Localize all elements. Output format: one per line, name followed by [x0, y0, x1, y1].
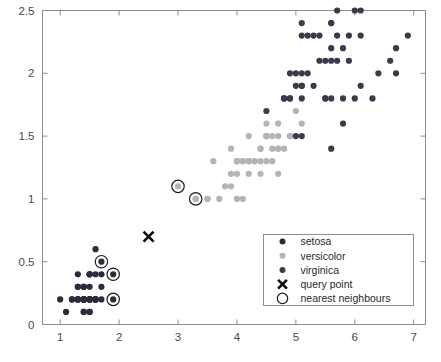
x-tick-label: 5 [293, 331, 299, 343]
data-point-virginica [322, 95, 328, 101]
data-point-setosa [87, 284, 93, 290]
data-point-virginica [299, 33, 305, 39]
data-point-virginica [293, 70, 299, 76]
data-point-virginica [299, 20, 305, 26]
data-point-virginica [287, 70, 293, 76]
data-point-versicolor [216, 196, 222, 202]
data-point-virginica [328, 20, 334, 26]
data-point-versicolor [193, 196, 199, 202]
series-versicolor-points [175, 95, 305, 202]
data-point-virginica [334, 33, 340, 39]
data-point-virginica [299, 83, 305, 89]
legend-label-virginica: virginica [301, 264, 340, 276]
data-point-versicolor [281, 146, 287, 152]
data-point-setosa [92, 296, 98, 302]
data-point-virginica [393, 45, 399, 51]
data-point-versicolor [240, 196, 246, 202]
data-point-virginica [340, 120, 346, 126]
data-point-versicolor [210, 158, 216, 164]
data-point-setosa [110, 271, 116, 277]
legend-label-nearest-neighbours: nearest neighbours [301, 292, 391, 304]
data-point-versicolor [263, 158, 269, 164]
data-point-virginica [352, 95, 358, 101]
series-setosa-points [57, 246, 116, 315]
data-point-virginica [293, 83, 299, 89]
y-tick-label: 1 [28, 193, 34, 205]
data-point-virginica [375, 70, 381, 76]
data-point-setosa [98, 259, 104, 265]
x-tick-label: 4 [234, 331, 241, 343]
data-point-setosa [92, 271, 98, 277]
data-point-virginica [328, 95, 334, 101]
y-tick-label: 0 [28, 319, 34, 331]
data-point-virginica [346, 33, 352, 39]
y-tick-label: 2 [28, 67, 34, 79]
data-point-versicolor [275, 171, 281, 177]
legend-marker-virginica [280, 267, 286, 273]
data-point-versicolor [275, 120, 281, 126]
data-point-versicolor [222, 183, 228, 189]
data-point-virginica [287, 95, 293, 101]
data-point-virginica [322, 58, 328, 64]
data-point-virginica [340, 45, 346, 51]
data-point-versicolor [269, 133, 275, 139]
data-point-setosa [57, 296, 63, 302]
data-point-versicolor [246, 171, 252, 177]
data-point-virginica [334, 58, 340, 64]
data-point-virginica [387, 58, 393, 64]
data-point-setosa [63, 309, 69, 315]
data-point-versicolor [275, 133, 281, 139]
data-point-virginica [340, 95, 346, 101]
data-point-versicolor [257, 158, 263, 164]
data-point-virginica [310, 33, 316, 39]
data-point-versicolor [293, 108, 299, 114]
data-point-virginica [305, 70, 311, 76]
x-tick-label: 6 [352, 331, 358, 343]
data-point-versicolor [240, 158, 246, 164]
data-point-virginica [405, 33, 411, 39]
data-point-virginica [316, 58, 322, 64]
data-point-versicolor [269, 146, 275, 152]
data-point-virginica [358, 83, 364, 89]
data-point-virginica [299, 70, 305, 76]
data-point-versicolor [234, 171, 240, 177]
data-point-versicolor [246, 158, 252, 164]
x-axis-tick-labels: 1234567 [57, 331, 417, 343]
y-axis-tick-labels: 00.511.522.5 [19, 5, 35, 331]
data-point-virginica [369, 95, 375, 101]
data-point-setosa [87, 296, 93, 302]
nearest-neighbour-rings [95, 180, 202, 305]
data-point-virginica [328, 58, 334, 64]
data-point-virginica [393, 70, 399, 76]
data-point-virginica [358, 33, 364, 39]
data-point-setosa [81, 296, 87, 302]
data-point-versicolor [263, 133, 269, 139]
legend-label-query-point: query point [301, 278, 353, 290]
data-point-setosa [92, 246, 98, 252]
data-point-versicolor [252, 158, 258, 164]
data-point-versicolor [228, 171, 234, 177]
data-point-setosa [81, 284, 87, 290]
data-point-virginica [358, 7, 364, 13]
data-point-versicolor [299, 120, 305, 126]
data-point-virginica [352, 7, 358, 13]
data-point-setosa [87, 309, 93, 315]
data-point-versicolor [246, 133, 252, 139]
data-point-virginica [299, 95, 305, 101]
x-tick-label: 7 [411, 331, 417, 343]
data-point-versicolor [234, 158, 240, 164]
legend-marker-setosa [280, 239, 286, 245]
scatter-plot-figure: 1234567 00.511.522.5 setosaversicolorvir… [0, 0, 441, 362]
data-point-virginica [346, 58, 352, 64]
data-point-setosa [87, 271, 93, 277]
data-point-virginica [310, 83, 316, 89]
legend-marker-versicolor [280, 253, 286, 259]
legend-label-setosa: setosa [301, 235, 332, 247]
data-point-versicolor [228, 183, 234, 189]
data-point-virginica [316, 33, 322, 39]
query-point-marker [144, 232, 154, 242]
x-tick-label: 3 [175, 331, 181, 343]
x-tick-label: 2 [116, 331, 122, 343]
data-point-versicolor [204, 196, 210, 202]
data-point-setosa [75, 271, 81, 277]
